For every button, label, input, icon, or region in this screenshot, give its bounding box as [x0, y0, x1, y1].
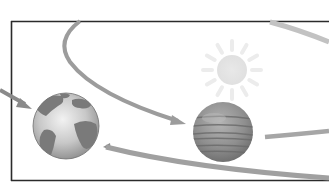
sun-icon	[203, 41, 261, 99]
orbit-arrow-to-earth	[0, 90, 32, 109]
orbit-path-top-right	[270, 22, 329, 42]
orbit-diagram	[0, 0, 329, 190]
earth-icon	[33, 93, 99, 159]
jupiter-icon	[193, 102, 253, 162]
orbit-path-right	[265, 131, 329, 137]
